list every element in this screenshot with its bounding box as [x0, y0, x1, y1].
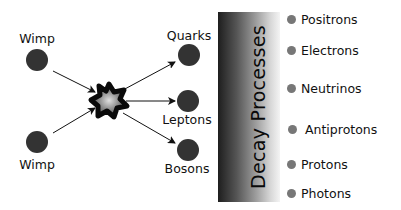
leptons-label: Leptons	[162, 112, 211, 127]
decay-item-label: Antiprotons	[305, 122, 377, 137]
bullet-icon	[287, 15, 296, 24]
bosons-node	[177, 139, 199, 161]
quarks-node	[178, 44, 200, 66]
decay-item-antiprotons: Antiprotons	[288, 122, 377, 137]
decay-item-electrons: Electrons	[287, 43, 359, 58]
wimp-bottom-node	[26, 131, 48, 153]
bullet-icon	[287, 160, 296, 169]
arrow-explosion-to-quarks	[123, 62, 175, 90]
wimp-bottom-label: Wimp	[19, 157, 55, 172]
decay-item-label: Electrons	[301, 43, 359, 58]
leptons-node	[177, 90, 199, 112]
explosion-star-icon	[91, 84, 127, 117]
wimp-top-label: Wimp	[19, 31, 55, 46]
quarks-label: Quarks	[167, 28, 211, 43]
bullet-icon	[288, 125, 297, 134]
bullet-icon	[287, 84, 296, 93]
wimp-top-node	[26, 49, 48, 71]
bullet-icon	[287, 189, 296, 198]
decay-item-positrons: Positrons	[287, 12, 358, 27]
decay-item-label: Photons	[301, 186, 351, 201]
decay-item-label: Positrons	[301, 12, 358, 27]
decay-item-protons: Protons	[287, 157, 348, 172]
decay-processes-label: Decay Processes	[247, 25, 269, 189]
decay-item-label: Protons	[301, 157, 348, 172]
bosons-label: Bosons	[165, 161, 210, 176]
arrow-wimp-top-to-explosion	[53, 71, 95, 92]
decay-item-photons: Photons	[287, 186, 351, 201]
arrow-wimp-bottom-to-explosion	[53, 108, 95, 133]
decay-item-label: Neutrinos	[301, 81, 362, 96]
bullet-icon	[287, 46, 296, 55]
decay-item-neutrinos: Neutrinos	[287, 81, 362, 96]
